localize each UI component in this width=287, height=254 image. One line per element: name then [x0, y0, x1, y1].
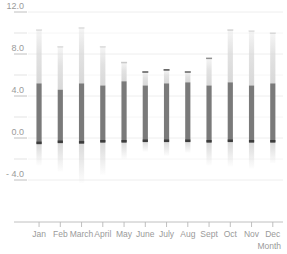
bar-body	[121, 81, 126, 142]
upper-cap	[121, 62, 127, 64]
x-axis-tick-label: Dec	[265, 229, 281, 239]
y-axis-tick-label: 12.0	[6, 1, 24, 11]
candlestick-bar	[36, 29, 42, 165]
y-axis-tick-label: 4.0	[11, 85, 24, 95]
lower-whisker	[36, 144, 41, 166]
x-axis-title-label: Month	[257, 241, 281, 251]
bar-body	[206, 86, 211, 143]
bar-body	[36, 83, 41, 143]
bar-body	[143, 86, 148, 142]
lower-cap	[206, 140, 211, 143]
x-axis-tick-label: Jan	[32, 229, 46, 239]
upper-whisker	[36, 30, 41, 84]
x-axis-tick-label: June	[136, 229, 155, 239]
upper-whisker	[249, 31, 254, 86]
lower-whisker	[185, 142, 190, 153]
chart-canvas: 12.08.04.00.0- 4.0 JanFebMarchAprilMayJu…	[0, 0, 287, 254]
lower-cap	[249, 140, 254, 143]
upper-cap	[79, 27, 85, 29]
candlestick-bar	[206, 58, 212, 166]
lower-whisker	[79, 143, 84, 183]
bar-body	[249, 86, 254, 143]
bar-body	[100, 86, 105, 143]
upper-whisker	[228, 30, 233, 83]
lower-whisker	[58, 143, 63, 172]
bar-body	[58, 90, 63, 143]
lower-cap	[143, 139, 148, 142]
bars-group	[36, 27, 276, 183]
upper-whisker	[270, 33, 275, 83]
x-axis-tick-label: Aug	[180, 229, 195, 239]
bar-body	[185, 82, 190, 141]
upper-whisker	[206, 58, 211, 85]
candlestick-bar	[164, 69, 170, 156]
x-axis-tick-label: March	[70, 229, 94, 239]
bar-body	[270, 83, 275, 142]
lower-whisker	[228, 142, 233, 167]
upper-cap	[142, 71, 148, 73]
lower-cap	[36, 142, 41, 145]
lower-whisker	[249, 142, 254, 168]
lower-cap	[270, 140, 275, 143]
candlestick-bar	[79, 27, 85, 183]
lower-cap	[121, 140, 126, 143]
candlestick-bar	[227, 29, 233, 166]
x-axis-tick-label: Oct	[224, 229, 238, 239]
lower-whisker	[164, 142, 169, 156]
upper-cap	[164, 69, 170, 71]
candlestick-bar	[57, 46, 63, 172]
x-axis-title: Month	[257, 241, 281, 251]
candlestick-bar	[100, 46, 106, 175]
x-axis-tick-label: Sept	[200, 229, 218, 239]
y-axis-tick-label: - 4.0	[6, 169, 24, 179]
y-axis-tick-label: 0.0	[11, 127, 24, 137]
upper-cap	[249, 30, 255, 32]
y-axis-tick-label: 8.0	[11, 43, 24, 53]
upper-whisker	[121, 62, 126, 81]
upper-cap	[36, 29, 42, 31]
upper-cap	[206, 58, 212, 60]
upper-cap	[57, 46, 63, 48]
x-axis-tick-label: Feb	[53, 229, 68, 239]
x-axis-tick-label: July	[159, 229, 175, 239]
bar-body	[79, 83, 84, 143]
gridlines	[28, 12, 283, 180]
candlestick-chart: 12.08.04.00.0- 4.0 JanFebMarchAprilMayJu…	[0, 0, 287, 254]
bar-body	[228, 82, 233, 141]
lower-whisker	[121, 142, 126, 159]
lower-cap	[164, 139, 169, 142]
bar-body	[164, 83, 169, 141]
y-axis-labels: 12.08.04.00.0- 4.0	[6, 1, 24, 179]
x-axis	[14, 222, 283, 227]
upper-cap	[185, 71, 191, 73]
candlestick-bar	[142, 71, 148, 151]
upper-cap	[100, 46, 106, 48]
lower-cap	[58, 141, 63, 144]
lower-cap	[185, 139, 190, 142]
lower-whisker	[100, 142, 105, 175]
candlestick-bar	[270, 32, 276, 163]
candlestick-bar	[121, 62, 127, 159]
x-axis-tick-label: May	[116, 229, 133, 239]
upper-whisker	[58, 47, 63, 90]
upper-cap	[227, 29, 233, 31]
x-axis-tick-label: April	[94, 229, 111, 239]
upper-whisker	[79, 28, 84, 84]
lower-whisker	[270, 142, 275, 163]
x-axis-labels: JanFebMarchAprilMayJuneJulyAugSeptOctNov…	[32, 229, 281, 239]
upper-whisker	[143, 72, 148, 86]
candlestick-bar	[249, 30, 255, 168]
upper-whisker	[100, 47, 105, 86]
lower-cap	[228, 139, 233, 142]
lower-whisker	[206, 142, 211, 165]
upper-cap	[270, 32, 276, 34]
y-axis-ticks	[14, 12, 27, 180]
candlestick-bar	[185, 71, 191, 152]
lower-cap	[79, 141, 84, 144]
lower-whisker	[143, 142, 148, 152]
x-axis-tick-label: Nov	[244, 229, 260, 239]
lower-cap	[100, 140, 105, 143]
upper-whisker	[164, 70, 169, 84]
upper-whisker	[185, 72, 190, 83]
